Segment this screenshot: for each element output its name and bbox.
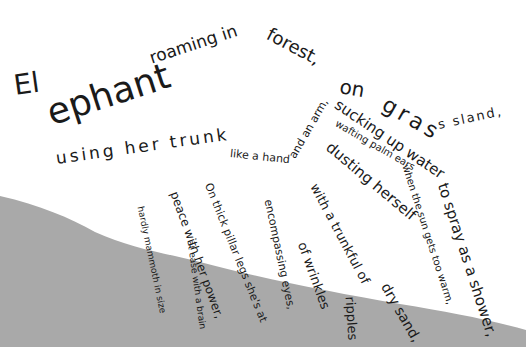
- concrete-poem-canvas: El ephant roaming in forest, on gras s s…: [0, 0, 526, 347]
- poem-line-ripples: ripples: [344, 296, 360, 341]
- poem-word-el: El: [12, 69, 41, 100]
